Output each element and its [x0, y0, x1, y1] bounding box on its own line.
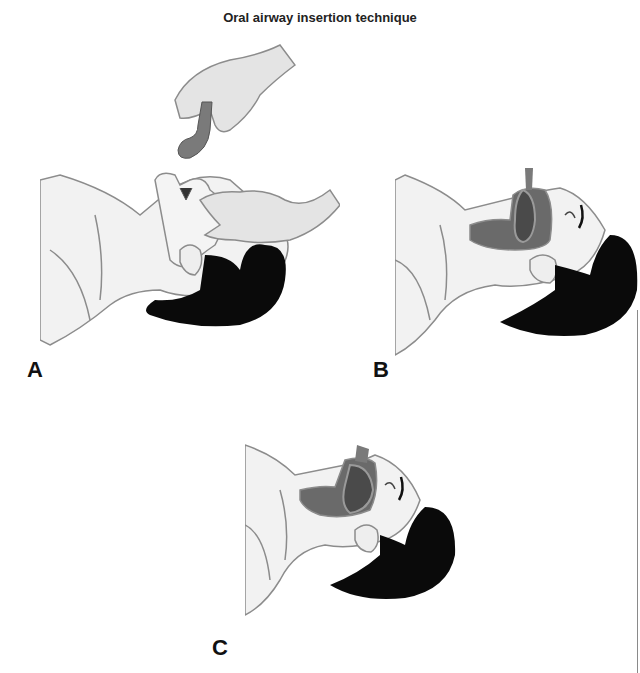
panel-b [395, 150, 640, 360]
figure-title: Oral airway insertion technique [0, 10, 640, 25]
panel-label-c: C [212, 635, 228, 661]
panel-label-b: B [373, 357, 389, 383]
illustration-panel-b [395, 150, 640, 360]
panel-label-a: A [27, 357, 43, 383]
panel-c [245, 435, 475, 620]
panel-a [40, 40, 340, 360]
page-edge-divider [637, 310, 638, 673]
illustration-panel-a [40, 40, 340, 360]
illustration-panel-c [245, 435, 475, 620]
